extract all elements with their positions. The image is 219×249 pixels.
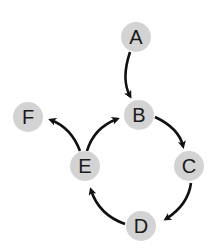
- edge-b-c: [155, 117, 183, 146]
- edge-a-b: [126, 52, 131, 96]
- node-e-label: E: [78, 155, 91, 177]
- node-d-label: D: [134, 215, 148, 237]
- graph-diagram: A B C D E F: [0, 0, 219, 249]
- node-e: E: [70, 151, 100, 181]
- node-c: C: [174, 151, 204, 181]
- node-d: D: [126, 211, 156, 241]
- edge-d-e: [91, 190, 125, 224]
- edge-e-b: [87, 119, 117, 151]
- node-b: B: [124, 100, 154, 130]
- edge-e-f: [51, 120, 80, 151]
- node-f: F: [13, 102, 43, 132]
- node-c-label: C: [182, 155, 196, 177]
- node-f-label: F: [22, 106, 34, 128]
- node-a-label: A: [129, 26, 143, 48]
- edge-c-d: [166, 183, 191, 219]
- node-b-label: B: [132, 104, 145, 126]
- node-a: A: [121, 22, 151, 52]
